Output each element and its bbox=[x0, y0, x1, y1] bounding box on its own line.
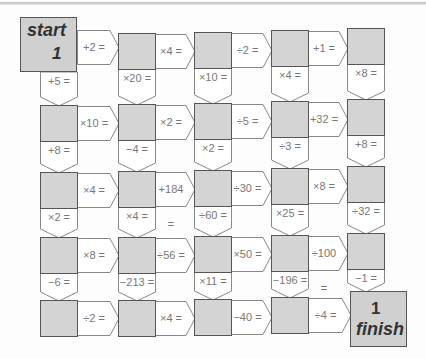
operation-arrow-right: +32 = bbox=[308, 102, 348, 137]
operation-arrow-down: −196 = bbox=[271, 271, 309, 298]
answer-box[interactable] bbox=[347, 166, 385, 203]
operation-label: −6 = bbox=[40, 276, 78, 288]
operation-label: ÷4 = bbox=[308, 298, 351, 333]
answer-box[interactable] bbox=[347, 233, 385, 270]
answer-box[interactable] bbox=[118, 300, 156, 337]
answer-box[interactable] bbox=[271, 297, 309, 334]
operation-arrow-right: +2 = bbox=[77, 30, 119, 65]
operation-label: ÷60 = bbox=[194, 209, 232, 221]
operation-arrow-down: ×25 = bbox=[271, 204, 309, 236]
operation-label: ×8 = bbox=[308, 169, 348, 204]
operation-arrow-down: ×20 = bbox=[118, 69, 156, 105]
operation-label: ×4 = bbox=[77, 173, 119, 208]
operation-arrow-right: ÷30 = bbox=[231, 171, 272, 206]
operation-label: +32 = bbox=[308, 102, 348, 137]
operation-arrow-right: ×8 = bbox=[308, 169, 348, 204]
answer-box[interactable] bbox=[271, 235, 309, 272]
operation-label: ×4 = bbox=[118, 210, 156, 222]
operation-arrow-right: ×10 = bbox=[77, 106, 119, 141]
operation-label: ×11 = bbox=[194, 275, 232, 287]
operation-label: ×4 = bbox=[271, 69, 309, 81]
answer-box[interactable] bbox=[118, 104, 156, 141]
start-box: start1 bbox=[20, 17, 77, 72]
operation-arrow-right: +1 = bbox=[308, 31, 348, 66]
operation-label: ÷32 = bbox=[347, 205, 385, 217]
operation-arrow-right: ÷2 = bbox=[231, 33, 272, 68]
answer-box[interactable] bbox=[40, 237, 78, 274]
answer-box[interactable] bbox=[194, 236, 232, 273]
answer-box[interactable] bbox=[40, 105, 78, 142]
operation-arrow-down: ×2 = bbox=[194, 139, 232, 171]
operation-arrow-right: +184 = bbox=[155, 172, 195, 207]
operation-label: ×4 = bbox=[155, 34, 195, 69]
answer-box[interactable] bbox=[118, 237, 156, 274]
answer-box[interactable] bbox=[40, 172, 78, 209]
finish-label: finish bbox=[356, 319, 404, 340]
answer-box[interactable] bbox=[347, 99, 385, 136]
operation-arrow-right: ×2 = bbox=[155, 105, 195, 140]
answer-box[interactable] bbox=[271, 168, 309, 205]
operation-label: ×25 = bbox=[271, 207, 309, 219]
operation-label: ×50 = bbox=[231, 237, 272, 272]
operation-arrow-right: ×4 = bbox=[77, 173, 119, 208]
operation-arrow-right: ×8 = bbox=[77, 238, 119, 273]
operation-arrow-down: ×8 = bbox=[347, 64, 385, 100]
operation-arrow-down: ÷60 = bbox=[194, 206, 232, 237]
operation-label: ×2 = bbox=[155, 105, 195, 140]
operation-arrow-down: +8 = bbox=[347, 135, 385, 167]
operation-label: +184 = bbox=[155, 172, 195, 207]
answer-box[interactable] bbox=[40, 300, 78, 337]
operation-label: ×8 = bbox=[77, 238, 119, 273]
operation-arrow-down: ×2 = bbox=[40, 208, 78, 238]
operation-arrow-down: −213 = bbox=[118, 273, 156, 301]
operation-arrow-down: −4 = bbox=[118, 140, 156, 172]
start-value: 1 bbox=[52, 44, 61, 64]
operation-arrow-down: −1 = bbox=[347, 269, 385, 292]
answer-box[interactable] bbox=[118, 33, 156, 70]
operation-label: ÷56 = bbox=[155, 238, 195, 273]
operation-arrow-down: ÷32 = bbox=[347, 202, 385, 234]
operation-label: ÷30 = bbox=[231, 171, 272, 206]
operation-arrow-right: −40 = bbox=[231, 300, 272, 335]
operation-label: +8 = bbox=[40, 144, 78, 156]
operation-label: ÷2 = bbox=[231, 33, 272, 68]
operation-label: ×4 = bbox=[155, 301, 195, 336]
answer-box[interactable] bbox=[194, 170, 232, 207]
operation-arrow-right: ÷5 = bbox=[231, 104, 272, 139]
operation-arrow-down: ×4 = bbox=[271, 66, 309, 102]
operation-arrow-down: +8 = bbox=[40, 141, 78, 173]
operation-label: −4 = bbox=[118, 143, 156, 155]
operation-label: ×20 = bbox=[118, 72, 156, 84]
answer-box[interactable] bbox=[271, 30, 309, 67]
answer-box[interactable] bbox=[194, 299, 232, 336]
answer-box[interactable] bbox=[194, 103, 232, 140]
operation-label: −196 = bbox=[271, 274, 309, 286]
operation-label: +2 = bbox=[77, 30, 119, 65]
operation-label: ×2 = bbox=[194, 142, 232, 154]
answer-box[interactable] bbox=[118, 171, 156, 208]
operation-label: +1 = bbox=[308, 31, 348, 66]
operation-label: −1 = bbox=[347, 272, 385, 284]
operation-arrow-right: ×50 = bbox=[231, 237, 272, 272]
operation-label: +8 = bbox=[347, 138, 385, 150]
operation-label: ×10 = bbox=[77, 106, 119, 141]
operation-arrow-right: ÷4 = bbox=[308, 298, 351, 333]
operation-label: ×8 = bbox=[347, 67, 385, 79]
answer-box[interactable] bbox=[271, 101, 309, 138]
finish-box: 1finish bbox=[350, 291, 407, 347]
answer-box[interactable] bbox=[194, 32, 232, 69]
operation-arrow-right: ×4 = bbox=[155, 301, 195, 336]
operation-arrow-down: ÷3 = bbox=[271, 137, 309, 169]
operation-label: ÷100 = bbox=[308, 236, 348, 271]
operation-label: ×10 = bbox=[194, 71, 232, 83]
operation-label: −213 = bbox=[118, 276, 156, 288]
operation-label: −40 = bbox=[231, 300, 272, 335]
operation-arrow-down: ×4 = bbox=[118, 207, 156, 238]
start-label: start bbox=[27, 20, 66, 41]
page-top-rule bbox=[0, 2, 426, 5]
answer-box[interactable] bbox=[347, 28, 385, 65]
operation-label: ÷5 = bbox=[231, 104, 272, 139]
operation-label: ÷2 = bbox=[77, 301, 119, 336]
operation-arrow-right: ÷2 = bbox=[77, 301, 119, 336]
operation-arrow-down: ×11 = bbox=[194, 272, 232, 300]
